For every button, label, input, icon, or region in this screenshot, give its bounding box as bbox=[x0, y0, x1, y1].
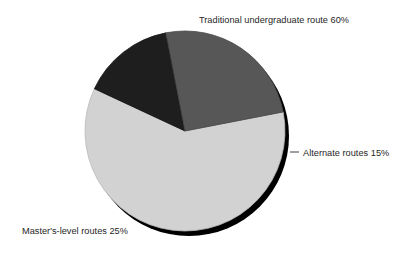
pie-chart-svg bbox=[0, 0, 417, 255]
slice-label-masters-level-routes: Master's-level routes 25% bbox=[22, 225, 128, 237]
slice-label-alternate-routes: Alternate routes 15% bbox=[303, 147, 389, 159]
slice-label-traditional-undergraduate-route: Traditional undergraduate route 60% bbox=[199, 14, 349, 26]
pie-chart-figure-page: Traditional undergraduate route 60% Alte… bbox=[0, 0, 417, 255]
pie-chart: Traditional undergraduate route 60% Alte… bbox=[0, 0, 417, 255]
